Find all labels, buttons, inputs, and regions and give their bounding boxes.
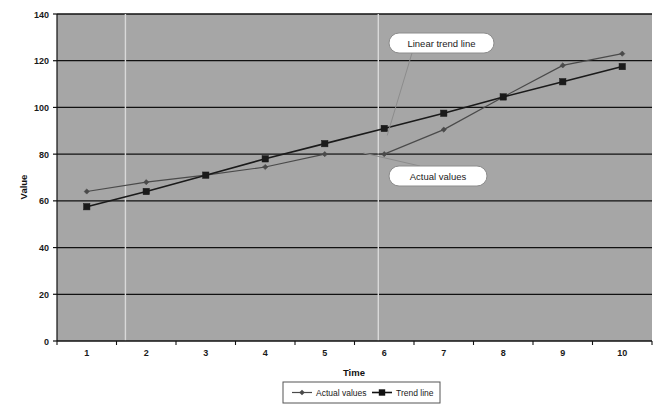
- legend-marker-icon: [379, 389, 385, 395]
- annotation-label: Actual values: [410, 171, 467, 182]
- x-axis-tick-label: 4: [263, 348, 268, 358]
- data-point: [203, 172, 209, 178]
- x-axis-tick-label: 10: [617, 348, 627, 358]
- x-axis-tick-label: 3: [203, 348, 208, 358]
- y-axis-tick-label: 100: [34, 103, 49, 113]
- annotation-label: Linear trend line: [407, 38, 475, 49]
- y-axis-tick-label: 80: [39, 150, 49, 160]
- x-axis-tick-label: 9: [560, 348, 565, 358]
- data-point: [322, 140, 328, 146]
- y-axis-tick-label: 120: [34, 56, 49, 66]
- x-axis-tick-label: 1: [84, 348, 89, 358]
- data-point: [143, 188, 149, 194]
- data-point: [262, 156, 268, 162]
- chart-container: 020406080100120140 12345678910 Linear tr…: [0, 0, 671, 413]
- chart-legend: Actual valuesTrend line: [283, 382, 440, 403]
- data-point: [560, 79, 566, 85]
- data-point: [84, 203, 90, 209]
- y-axis-tick-label: 20: [39, 290, 49, 300]
- x-axis-tick-label: 5: [322, 348, 327, 358]
- x-axis-tick-label: 6: [382, 348, 387, 358]
- y-axis-tick-label: 0: [44, 337, 49, 347]
- data-point: [619, 63, 625, 69]
- legend-label: Trend line: [396, 388, 434, 398]
- data-point: [500, 94, 506, 100]
- y-axis-tick-label: 140: [34, 10, 49, 20]
- x-axis-tick-label: 7: [441, 348, 446, 358]
- y-axis-tick-label: 40: [39, 243, 49, 253]
- x-axis-tick-label: 2: [144, 348, 149, 358]
- data-point: [381, 125, 387, 131]
- y-axis-title: Value: [18, 175, 29, 200]
- legend-label: Actual values: [316, 388, 367, 398]
- x-axis-title: Time: [343, 367, 365, 378]
- y-axis-tick-label: 60: [39, 196, 49, 206]
- data-point: [441, 110, 447, 116]
- x-axis-tick-label: 8: [501, 348, 506, 358]
- line-chart: 020406080100120140 12345678910 Linear tr…: [0, 0, 671, 413]
